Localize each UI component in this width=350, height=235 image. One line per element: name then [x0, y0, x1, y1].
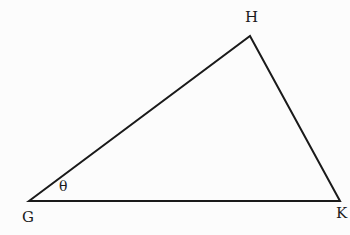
angle-label-theta: θ [59, 178, 67, 194]
vertex-label-g: G [22, 208, 34, 226]
triangle-diagram: H G K θ [0, 0, 350, 235]
triangle-ghk [29, 36, 340, 201]
vertex-label-h: H [245, 8, 258, 26]
vertex-label-k: K [336, 204, 348, 222]
